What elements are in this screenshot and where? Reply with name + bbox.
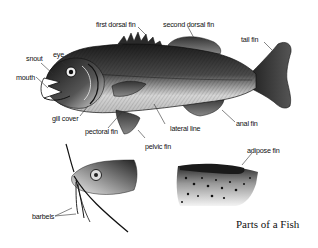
pupil [69,70,73,74]
adipose-fin-illustration [177,164,258,206]
label-pelvic-fin: pelvic fin [145,142,171,151]
fish-diagram: first dorsal fin second dorsal fin tail … [0,0,318,248]
label-adipose-fin: adipose fin [247,146,280,155]
label-second-dorsal-fin: second dorsal fin [163,20,214,29]
diagram-canvas: first dorsal fin second dorsal fin tail … [0,0,318,248]
leader-tail-fin [264,42,272,50]
catfish-head-shape [71,160,137,195]
barbel-upper [66,144,74,172]
label-tail-fin: tail fin [241,35,258,44]
diagram-title: Parts of a Fish [236,218,300,230]
label-barbels: barbels [32,212,55,221]
catfish-pupil [94,173,98,177]
label-snout: snout [26,54,43,63]
label-lateral-line: lateral line [170,124,201,133]
catfish-head-illustration [66,144,137,232]
label-gill-cover: gill cover [52,114,79,123]
leader-first-dorsal-fin [138,27,146,35]
label-first-dorsal-fin: first dorsal fin [96,20,136,29]
leader-anal-fin [222,110,235,122]
label-eye: eye [53,50,64,59]
label-mouth: mouth [16,73,35,82]
pelvic-fin-shape [116,110,140,134]
label-pectoral-fin: pectoral fin [85,127,118,136]
label-anal-fin: anal fin [236,119,258,128]
leader-pelvic-fin [138,130,145,138]
